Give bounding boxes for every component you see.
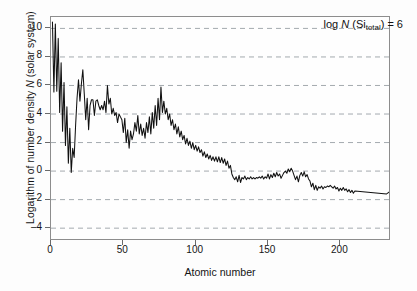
x-tick-mark xyxy=(267,240,268,245)
x-tick-label: 100 xyxy=(175,244,215,255)
solar-system-abundance-chart: Logarithm of number density N (solar sys… xyxy=(0,0,417,291)
y-tick-label: 8 xyxy=(0,49,42,60)
x-tick-mark xyxy=(339,240,340,245)
annotation-close: ) = 6 xyxy=(381,18,403,30)
x-tick-label: 150 xyxy=(247,244,287,255)
y-tick-label: –2 xyxy=(0,192,42,203)
y-tick-label: 10 xyxy=(0,21,42,32)
plot-area xyxy=(50,16,390,240)
x-tick-mark xyxy=(195,240,196,245)
gridlines xyxy=(51,28,390,228)
x-tick-label: 0 xyxy=(30,244,70,255)
x-tick-label: 200 xyxy=(319,244,359,255)
x-tick-mark xyxy=(122,240,123,245)
abundance-curve xyxy=(52,22,390,195)
y-tick-label: 4 xyxy=(0,107,42,118)
x-axis-title: Atomic number xyxy=(50,266,390,278)
normalization-annotation: log N (Sitotal) = 6 xyxy=(324,18,403,32)
y-tick-label: 0 xyxy=(0,164,42,175)
annotation-subscript: total xyxy=(366,23,381,32)
annotation-open: (Si xyxy=(349,18,366,30)
annotation-prefix: log xyxy=(324,18,342,30)
y-tick-label: 2 xyxy=(0,135,42,146)
plot-svg xyxy=(51,17,390,240)
y-tick-label: 6 xyxy=(0,78,42,89)
x-tick-label: 50 xyxy=(102,244,142,255)
x-tick-mark xyxy=(50,240,51,245)
y-tick-label: –4 xyxy=(0,221,42,232)
